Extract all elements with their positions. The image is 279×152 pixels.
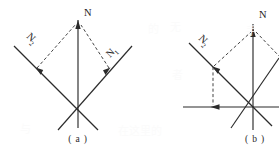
- parallelogram-right-b: [256, 32, 279, 56]
- parallelogram-right-a: [81, 25, 109, 68]
- axis-diag-left-a: [14, 46, 98, 130]
- show-through-mark: 手: [246, 22, 257, 38]
- show-through-mark: 与: [20, 120, 31, 136]
- label-resultant-b: N: [259, 9, 267, 20]
- show-through-mark: 者: [172, 66, 183, 82]
- axis-diag-right-a: [58, 46, 132, 130]
- caption-panel-b: ( b ): [245, 134, 265, 145]
- show-through-mark: 在这里的: [118, 122, 162, 138]
- label-resultant-a: N: [84, 7, 92, 18]
- arrowhead-resultant-a: [75, 20, 80, 29]
- caption-panel-a: ( a ): [68, 134, 87, 145]
- show-through-mark: 无: [170, 18, 181, 34]
- panel-a: N N 2 N 1 ( a ): [14, 7, 132, 145]
- arrowhead-horizontal-b: [211, 104, 220, 109]
- axis-diag-left-b: [189, 43, 272, 126]
- panel-b: N N 2 ( b ): [183, 9, 279, 145]
- parallelogram-left-a: [37, 24, 76, 68]
- physics-vector-diagram: 的 无 手 者 在这里的 与 N N 2: [0, 0, 279, 152]
- show-through-mark: 的: [148, 20, 159, 36]
